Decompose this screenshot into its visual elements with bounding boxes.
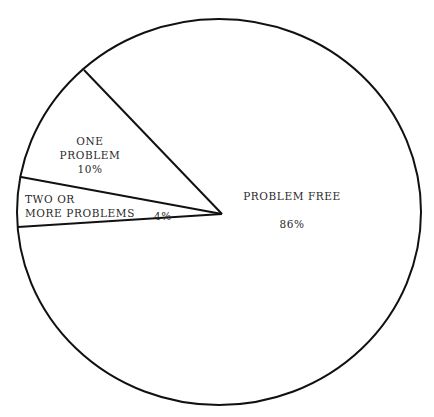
slice-name-line2: MORE PROBLEMS: [25, 206, 135, 220]
slice-name: PROBLEM FREE: [232, 189, 352, 203]
slice-value-two-or-more: 4%: [154, 209, 172, 223]
slice-name-line2: PROBLEM: [50, 148, 130, 162]
pie-chart: PROBLEM FREE 86% ONE PROBLEM 10% TWO OR …: [0, 0, 434, 417]
slice-label-one-problem: ONE PROBLEM 10%: [50, 134, 130, 176]
slice-name-line1: TWO OR: [25, 192, 135, 206]
slice-label-problem-free: PROBLEM FREE 86%: [232, 189, 352, 231]
slice-value: 86%: [232, 217, 352, 231]
slice-label-two-or-more: TWO OR MORE PROBLEMS: [25, 192, 135, 220]
slice-name-line1: ONE: [50, 134, 130, 148]
slice-value: 10%: [50, 162, 130, 176]
